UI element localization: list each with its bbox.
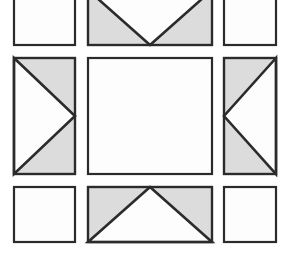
- cell-top-left-outline: [14, 0, 75, 45]
- bottom-center-arrow-up-tile: [88, 187, 212, 242]
- cell-top-right-outline: [224, 0, 276, 45]
- cell-center-outline: [88, 58, 212, 174]
- figure-root: [0, 0, 287, 260]
- center-plain-tile: [88, 58, 212, 174]
- top-right-plain-tile: [224, 0, 276, 45]
- bottom-left-plain-tile: [14, 187, 75, 242]
- top-center-arrow-down-tile: [88, 0, 212, 45]
- arrow-grid-figure: [0, 0, 287, 260]
- middle-right-arrow-left-tile: [224, 58, 276, 174]
- grid-cells-layer: [14, 0, 276, 242]
- bottom-right-plain-tile: [224, 187, 276, 242]
- cell-bottom-left-outline: [14, 187, 75, 242]
- cell-bottom-right-outline: [224, 187, 276, 242]
- middle-left-arrow-right-tile: [14, 58, 75, 174]
- top-left-plain-tile: [14, 0, 75, 45]
